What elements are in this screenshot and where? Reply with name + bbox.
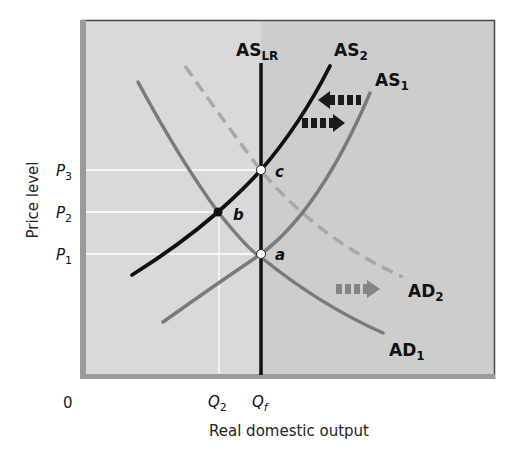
y-tick-p3: P3 — [56, 162, 72, 183]
origin-label: 0 — [63, 394, 73, 412]
x-axis — [80, 374, 495, 379]
x-axis-title: Real domestic output — [209, 422, 369, 440]
y-tick-p1: P1 — [56, 246, 72, 267]
point-a-marker — [257, 250, 266, 259]
y-axis — [80, 20, 86, 379]
y-axis-title: Price level — [24, 161, 42, 238]
y-tick-p2: P2 — [56, 204, 72, 225]
x-tick-q2: Q2 — [208, 393, 227, 414]
point-c-label: c — [275, 163, 284, 181]
point-a-label: a — [275, 246, 285, 264]
x-tick-qf: Qf — [252, 393, 270, 414]
point-b-marker — [214, 208, 223, 217]
ad-as-chart: c b a ASLR AS2 AS1 AD2 AD1 P3 P2 P1 0 Q2… — [0, 0, 510, 460]
point-c-marker — [257, 166, 266, 175]
point-b-label: b — [233, 206, 244, 224]
